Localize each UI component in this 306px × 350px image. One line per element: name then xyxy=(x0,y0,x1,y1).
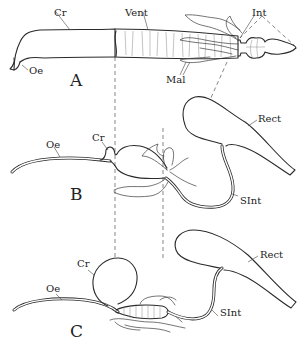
digestive-tract-diagram: Cr Vent Int Mal Oe A Oe Cr Rect SInt B xyxy=(0,0,306,350)
panel-b-rectum xyxy=(183,97,295,175)
panel-c-rectum xyxy=(175,230,296,308)
panel-c-label-oesophagus: Oe xyxy=(46,283,60,294)
panel-b-malpighian-tubules xyxy=(114,144,196,197)
panel-c-label-crop: Cr xyxy=(77,258,90,269)
panel-b-label-rectum: Rect xyxy=(258,113,281,124)
panel-a-label-oesophagus: Oe xyxy=(29,65,43,76)
panel-a-label-ventriculus: Vent xyxy=(124,7,148,18)
panel-a: Cr Vent Int Mal Oe A xyxy=(10,7,296,260)
panel-c: Oe Cr Rect SInt C xyxy=(14,230,296,341)
panel-b: Oe Cr Rect SInt B xyxy=(12,97,295,208)
panel-a-letter: A xyxy=(69,70,83,90)
panel-b-label-crop: Cr xyxy=(92,132,105,143)
panel-a-label-crop: Cr xyxy=(54,7,67,18)
panel-a-label-intestine: Int xyxy=(252,7,266,18)
panel-b-oesophagus xyxy=(12,158,110,172)
panel-a-ventriculus xyxy=(115,29,238,59)
panel-c-crop xyxy=(93,258,137,306)
panel-c-label-small-intestine: SInt xyxy=(220,307,241,318)
panel-a-label-malpighian: Mal xyxy=(166,74,185,85)
panel-b-label-oesophagus: Oe xyxy=(46,139,60,150)
panel-a-intestine xyxy=(238,38,296,59)
panel-a-ventriculus-striations xyxy=(125,31,231,57)
panel-c-oesophagus xyxy=(14,299,118,312)
panel-c-letter: C xyxy=(70,321,83,341)
panel-b-letter: B xyxy=(70,184,83,204)
panel-c-label-rectum: Rect xyxy=(260,249,283,260)
panel-a-crop xyxy=(14,29,115,70)
panel-b-label-small-intestine: SInt xyxy=(240,195,261,206)
